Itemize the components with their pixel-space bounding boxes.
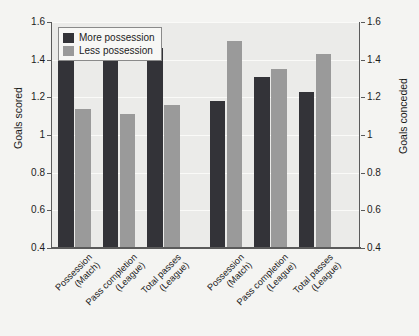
- bar: [227, 41, 243, 248]
- y-axis-left-tick: [47, 173, 51, 174]
- bar: [210, 101, 226, 248]
- legend-item: More possession: [63, 31, 155, 44]
- y-axis-left-tick-label: 0.6: [31, 205, 45, 215]
- y-axis-left-title: Goals scored: [12, 68, 24, 168]
- legend-item: Less possession: [63, 44, 155, 57]
- bar: [164, 105, 180, 248]
- y-axis-right-tick: [361, 173, 365, 174]
- y-axis-right-tick: [361, 97, 365, 98]
- y-axis-left-tick-label: 0.8: [31, 168, 45, 178]
- y-axis-left-tick-label: 1.4: [31, 55, 45, 65]
- bar: [58, 52, 74, 248]
- y-axis-right-tick-label: 1.6: [367, 17, 381, 27]
- y-axis-left-tick: [47, 210, 51, 211]
- bar: [299, 92, 315, 248]
- legend-swatch-less: [63, 46, 74, 56]
- y-axis-right-tick: [361, 210, 365, 211]
- y-axis-left-tick-label: 1: [39, 130, 45, 140]
- y-axis-right-tick: [361, 248, 365, 249]
- y-axis-left-tick-label: 1.6: [31, 17, 45, 27]
- y-axis-right-tick-label: 1.2: [367, 92, 381, 102]
- y-axis-left-tick-label: 1.2: [31, 92, 45, 102]
- chart-figure: 1.61.41.210.80.60.4 1.61.41.210.80.60.4 …: [0, 0, 419, 336]
- legend-label: More possession: [79, 32, 155, 43]
- chart-legend: More possessionLess possession: [58, 27, 162, 61]
- bar: [75, 109, 91, 248]
- y-axis-right-tick-label: 0.6: [367, 205, 381, 215]
- y-axis-left-tick: [47, 135, 51, 136]
- y-axis-left-tick: [47, 97, 51, 98]
- y-axis-right-tick: [361, 22, 365, 23]
- bar: [147, 48, 163, 248]
- bar: [103, 50, 119, 248]
- x-axis-line: [51, 247, 361, 249]
- y-axis-left-tick: [47, 248, 51, 249]
- bar: [254, 77, 270, 248]
- y-axis-left-tick: [47, 60, 51, 61]
- y-axis-right-tick-label: 1.4: [367, 55, 381, 65]
- y-axis-right-tick-label: 1: [367, 130, 373, 140]
- y-axis-right-tick: [361, 60, 365, 61]
- bar: [120, 114, 136, 248]
- bar: [316, 54, 332, 248]
- y-axis-right-tick-label: 0.8: [367, 168, 381, 178]
- gridline: [52, 22, 359, 23]
- y-axis-right-tick-label: 0.4: [367, 243, 381, 253]
- y-axis-left-tick-label: 0.4: [31, 243, 45, 253]
- legend-swatch-more: [63, 33, 74, 43]
- bar: [271, 69, 287, 248]
- y-axis-right-title: Goals conceded: [397, 61, 409, 171]
- y-axis-right-tick: [361, 135, 365, 136]
- y-axis-left-tick: [47, 22, 51, 23]
- legend-label: Less possession: [79, 45, 153, 56]
